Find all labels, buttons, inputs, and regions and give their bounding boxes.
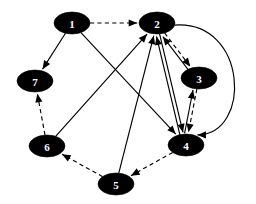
arrowhead-5-to-2 — [148, 36, 155, 45]
arrowhead-4-to-5 — [131, 168, 140, 175]
arrowhead-1-to-2 — [129, 19, 138, 26]
node-shape-1[interactable] — [54, 12, 90, 34]
arrowhead-1-to-7 — [43, 60, 51, 69]
nodes-layer: 1234567 — [17, 12, 217, 195]
edge-1-to-2 — [90, 19, 137, 26]
edge-1-to-7 — [43, 33, 66, 69]
graph-node-7[interactable]: 7 — [17, 70, 53, 92]
node-shape-3[interactable] — [181, 67, 217, 89]
edge-line-solid — [160, 34, 183, 132]
graph-node-6[interactable]: 6 — [29, 135, 65, 157]
arrowhead-6-to-7 — [35, 94, 42, 103]
arrowhead-3-to-2 — [163, 37, 171, 46]
node-shape-2[interactable] — [139, 12, 175, 34]
arrowhead-5-to-6 — [62, 154, 71, 161]
arrowhead-4-to-3 — [188, 90, 195, 99]
edges-layer — [35, 19, 234, 176]
edge-4-to-5 — [131, 152, 173, 175]
edge-6-to-7 — [35, 94, 45, 135]
graph-node-1[interactable]: 1 — [54, 12, 90, 34]
graph-node-5[interactable]: 5 — [98, 173, 134, 195]
arrowhead-3-to-4 — [187, 123, 194, 132]
edge-5-to-6 — [62, 154, 103, 176]
arrowhead-2-to-3 — [182, 58, 190, 67]
graph-diagram: 1234567 — [0, 0, 256, 204]
node-shape-6[interactable] — [29, 135, 65, 157]
node-shape-7[interactable] — [17, 70, 53, 92]
node-shape-4[interactable] — [168, 134, 204, 156]
edge-5-to-2 — [119, 36, 155, 174]
edge-line-solid — [56, 34, 147, 136]
node-shape-5[interactable] — [98, 173, 134, 195]
graph-node-4[interactable]: 4 — [168, 134, 204, 156]
edge-6-to-2 — [56, 34, 147, 136]
edge-4-to-2 — [155, 36, 180, 134]
edge-2-to-3 — [165, 33, 191, 67]
graph-canvas: 1234567 — [0, 0, 256, 204]
graph-node-3[interactable]: 3 — [181, 67, 217, 89]
edge-line-solid — [81, 33, 176, 134]
edge-1-to-4 — [81, 33, 176, 134]
edge-line-solid — [157, 36, 180, 134]
graph-node-2[interactable]: 2 — [139, 12, 175, 34]
